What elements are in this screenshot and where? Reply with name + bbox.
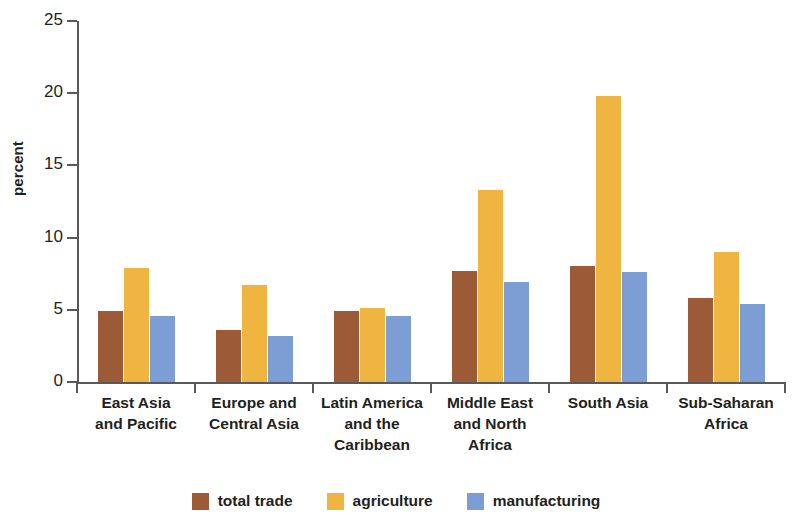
- bar-manufacturing: [504, 282, 529, 382]
- bar-group: [667, 21, 785, 382]
- bar-group: [431, 21, 549, 382]
- y-axis-title: percent: [9, 114, 26, 224]
- y-tick-label: 20: [25, 82, 63, 102]
- legend-swatch-icon: [192, 493, 209, 510]
- y-tick-mark: [67, 309, 77, 311]
- legend-item[interactable]: manufacturing: [467, 492, 601, 510]
- bar-agriculture: [596, 96, 621, 382]
- bar-group: [77, 21, 195, 382]
- bar-agriculture: [714, 252, 739, 382]
- x-category-label-line: Europe and: [195, 392, 313, 413]
- x-category-label-line: and the: [313, 413, 431, 434]
- legend-label: total trade: [218, 492, 293, 510]
- y-tick-mark: [67, 20, 77, 22]
- chart-legend: total tradeagriculturemanufacturing: [0, 492, 792, 510]
- x-category-label-line: and North: [431, 413, 549, 434]
- bar-manufacturing: [386, 316, 411, 382]
- legend-label: manufacturing: [493, 492, 601, 510]
- legend-item[interactable]: total trade: [192, 492, 293, 510]
- x-category-label: South Asia: [549, 392, 667, 413]
- bar-agriculture: [242, 285, 267, 382]
- bar-manufacturing: [150, 316, 175, 382]
- x-category-label-line: Caribbean: [313, 434, 431, 455]
- plot-area: 0510152025: [77, 21, 785, 382]
- x-category-label-line: Sub-Saharan: [667, 392, 785, 413]
- bar-agriculture: [124, 268, 149, 382]
- x-category-label-line: Africa: [667, 413, 785, 434]
- bar-manufacturing: [740, 304, 765, 382]
- bar-total_trade: [452, 271, 477, 382]
- x-category-label-line: and Pacific: [77, 413, 195, 434]
- x-category-label: Middle Eastand NorthAfrica: [431, 392, 549, 455]
- bar-total_trade: [334, 311, 359, 382]
- y-tick-label: 25: [25, 10, 63, 30]
- y-tick-label: 0: [25, 371, 63, 391]
- bar-group: [313, 21, 431, 382]
- y-tick-label: 15: [25, 154, 63, 174]
- x-category-label-line: Latin America: [313, 392, 431, 413]
- bar-manufacturing: [622, 272, 647, 382]
- bar-total_trade: [216, 330, 241, 382]
- x-category-label-line: South Asia: [549, 392, 667, 413]
- bar-agriculture: [360, 308, 385, 382]
- bar-agriculture: [478, 190, 503, 382]
- x-category-label: Europe andCentral Asia: [195, 392, 313, 434]
- bar-total_trade: [688, 298, 713, 382]
- x-category-label: East Asiaand Pacific: [77, 392, 195, 434]
- y-tick-mark: [67, 237, 77, 239]
- x-category-label: Latin Americaand theCaribbean: [313, 392, 431, 455]
- bar-total_trade: [570, 266, 595, 382]
- legend-swatch-icon: [327, 493, 344, 510]
- y-tick-label: 5: [25, 299, 63, 319]
- y-tick-mark: [67, 92, 77, 94]
- x-category-label-line: Africa: [431, 434, 549, 455]
- y-tick-label: 10: [25, 227, 63, 247]
- bar-group: [195, 21, 313, 382]
- x-axis-category-labels: East Asiaand PacificEurope andCentral As…: [77, 392, 785, 482]
- x-category-label-line: East Asia: [77, 392, 195, 413]
- x-category-label-line: Central Asia: [195, 413, 313, 434]
- legend-item[interactable]: agriculture: [327, 492, 433, 510]
- bar-chart: percent 0510152025 East Asiaand PacificE…: [0, 0, 792, 526]
- bar-total_trade: [98, 311, 123, 382]
- x-category-label-line: Middle East: [431, 392, 549, 413]
- legend-swatch-icon: [467, 493, 484, 510]
- legend-label: agriculture: [353, 492, 433, 510]
- bar-group: [549, 21, 667, 382]
- y-tick-mark: [67, 164, 77, 166]
- bar-manufacturing: [268, 336, 293, 382]
- x-category-label: Sub-SaharanAfrica: [667, 392, 785, 434]
